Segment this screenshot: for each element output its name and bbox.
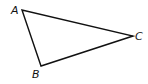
triangle-diagram: A B C (0, 0, 148, 84)
vertex-label-b: B (32, 68, 40, 81)
vertex-label-c: C (135, 30, 143, 43)
triangle-abc (22, 10, 133, 66)
vertex-label-a: A (10, 4, 19, 17)
